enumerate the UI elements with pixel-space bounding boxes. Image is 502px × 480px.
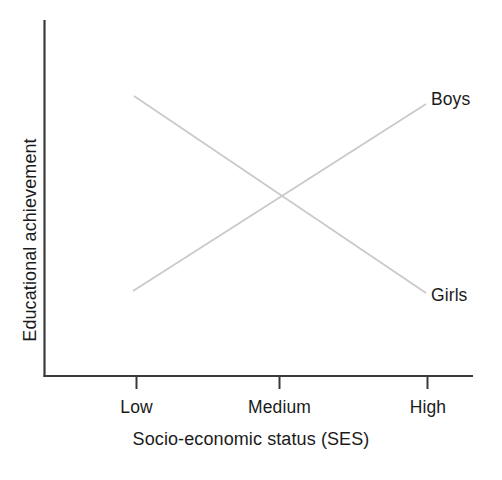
series-label-girls: Girls (431, 287, 467, 305)
x-tick-label-low: Low (96, 399, 177, 417)
series-label-boys: Boys (431, 91, 470, 109)
x-axis-title: Socio-economic status (SES) (0, 430, 502, 448)
x-tick-label-high: High (388, 399, 468, 417)
chart-figure: Boys Girls Low Medium High Socio-economi… (0, 0, 502, 480)
x-tick-label-medium: Medium (220, 399, 339, 417)
series-line-girls (134, 96, 426, 293)
